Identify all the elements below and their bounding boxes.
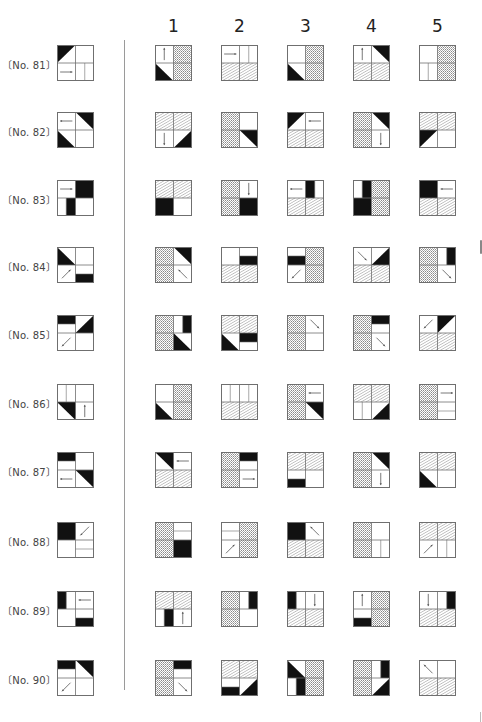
answer-option-5[interactable] [419, 522, 456, 558]
answer-option-1[interactable] [155, 452, 192, 488]
answer-option-4[interactable] [353, 591, 390, 627]
answer-option-3[interactable] [287, 247, 324, 283]
black-bar [57, 315, 76, 324]
answer-option-1[interactable] [155, 315, 192, 351]
black-bar [57, 591, 66, 609]
answer-option-2[interactable] [221, 591, 258, 627]
answer-option-4[interactable] [353, 247, 390, 283]
hatch-fill [438, 452, 457, 470]
answer-option-2[interactable] [221, 112, 258, 148]
answer-option-2[interactable] [221, 522, 258, 558]
black-triangle [438, 315, 457, 333]
answer-option-5[interactable] [419, 45, 456, 81]
crosshatch-fill [419, 247, 438, 265]
answer-option-4[interactable] [353, 384, 390, 420]
arrow-icon [376, 338, 385, 347]
crosshatch-fill [221, 591, 240, 609]
answer-option-5[interactable] [419, 660, 456, 696]
column-header-2: 2 [221, 16, 258, 36]
black-fill [155, 198, 174, 216]
black-triangle [57, 402, 76, 420]
answer-option-3[interactable] [287, 522, 324, 558]
answer-option-3[interactable] [287, 315, 324, 351]
answer-option-3[interactable] [287, 660, 324, 696]
answer-option-4[interactable] [353, 112, 390, 148]
arrow-icon [310, 320, 319, 329]
answer-option-1[interactable] [155, 45, 192, 81]
answer-option-1[interactable] [155, 247, 192, 283]
hatch-fill [240, 265, 259, 283]
crosshatch-fill [438, 63, 457, 81]
black-triangle [287, 112, 306, 130]
hatch-fill [438, 112, 457, 130]
answer-option-5[interactable] [419, 180, 456, 216]
hatch-fill [240, 660, 259, 678]
crosshatch-fill [372, 180, 391, 198]
crosshatch-fill [372, 591, 391, 609]
answer-option-4[interactable] [353, 180, 390, 216]
answer-option-2[interactable] [221, 180, 258, 216]
crosshatch-fill [353, 660, 372, 678]
crosshatch-fill [221, 130, 240, 148]
black-bar [76, 618, 95, 627]
answer-option-5[interactable] [419, 315, 456, 351]
question-figure [57, 315, 94, 351]
answer-option-3[interactable] [287, 45, 324, 81]
answer-option-3[interactable] [287, 384, 324, 420]
black-triangle [372, 247, 391, 265]
answer-option-2[interactable] [221, 660, 258, 696]
answer-option-4[interactable] [353, 660, 390, 696]
arrow-icon [424, 545, 433, 554]
answer-option-4[interactable] [353, 315, 390, 351]
answer-option-4[interactable] [353, 452, 390, 488]
crosshatch-fill [438, 45, 457, 63]
answer-option-4[interactable] [353, 522, 390, 558]
black-bar [447, 247, 456, 265]
answer-option-5[interactable] [419, 112, 456, 148]
arrow-icon [361, 594, 363, 606]
crosshatch-fill [155, 333, 174, 351]
crosshatch-fill [353, 678, 372, 696]
crosshatch-fill [155, 315, 174, 333]
answer-option-3[interactable] [287, 180, 324, 216]
answer-option-1[interactable] [155, 112, 192, 148]
answer-option-2[interactable] [221, 384, 258, 420]
problem-label: 〔No. 86〕 [2, 396, 56, 411]
answer-option-2[interactable] [221, 247, 258, 283]
black-triangle [57, 247, 76, 265]
answer-option-1[interactable] [155, 384, 192, 420]
answer-option-5[interactable] [419, 452, 456, 488]
hatch-fill [438, 609, 457, 627]
answer-option-2[interactable] [221, 452, 258, 488]
black-triangle [372, 402, 391, 420]
crosshatch-fill [306, 265, 325, 283]
black-triangle [174, 247, 193, 265]
column-header-3: 3 [287, 16, 324, 36]
answer-option-5[interactable] [419, 247, 456, 283]
answer-option-1[interactable] [155, 522, 192, 558]
page-edge-mark [480, 712, 481, 722]
black-bar [306, 180, 315, 198]
answer-option-4[interactable] [353, 45, 390, 81]
crosshatch-fill [221, 609, 240, 627]
answer-option-3[interactable] [287, 112, 324, 148]
answer-option-1[interactable] [155, 591, 192, 627]
answer-option-1[interactable] [155, 660, 192, 696]
hatch-fill [287, 198, 306, 216]
black-bar [296, 678, 305, 696]
arrow-icon [290, 188, 302, 190]
answer-option-2[interactable] [221, 45, 258, 81]
answer-option-5[interactable] [419, 591, 456, 627]
answer-option-1[interactable] [155, 180, 192, 216]
answer-option-3[interactable] [287, 452, 324, 488]
hatch-fill [372, 265, 391, 283]
hatch-fill [174, 470, 193, 488]
crosshatch-fill [221, 470, 240, 488]
hatch-fill [221, 402, 240, 420]
hatch-fill [221, 265, 240, 283]
answer-option-3[interactable] [287, 591, 324, 627]
answer-option-5[interactable] [419, 384, 456, 420]
answer-option-2[interactable] [221, 315, 258, 351]
arrow-icon [177, 460, 189, 462]
crosshatch-fill [155, 247, 174, 265]
